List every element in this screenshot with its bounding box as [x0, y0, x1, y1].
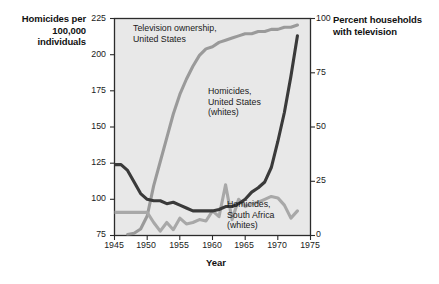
- bottom-tick-marks: [115, 236, 311, 241]
- annotation-tv-line1: Television ownership,: [133, 23, 217, 34]
- plot-area: [0, 0, 439, 284]
- annotation-sa-homicides: Homicides, South Africa (whites): [227, 199, 274, 231]
- annotation-us-homicides: Homicides, United States (whites): [208, 86, 261, 118]
- annotation-tv-line2: United States: [133, 34, 217, 45]
- annotation-us-line2: United States: [208, 97, 261, 108]
- chart-figure: Homicides per 100,000 individuals Percen…: [0, 0, 439, 284]
- right-tick-marks: [311, 19, 316, 236]
- annotation-sa-line1: Homicides,: [227, 199, 274, 210]
- annotation-sa-line2: South Africa: [227, 210, 274, 221]
- annotation-sa-line3: (whites): [227, 220, 274, 231]
- annotation-tv-ownership: Television ownership, United States: [133, 23, 217, 44]
- annotation-us-line3: (whites): [208, 107, 261, 118]
- annotation-us-line1: Homicides,: [208, 86, 261, 97]
- left-tick-marks: [110, 19, 115, 236]
